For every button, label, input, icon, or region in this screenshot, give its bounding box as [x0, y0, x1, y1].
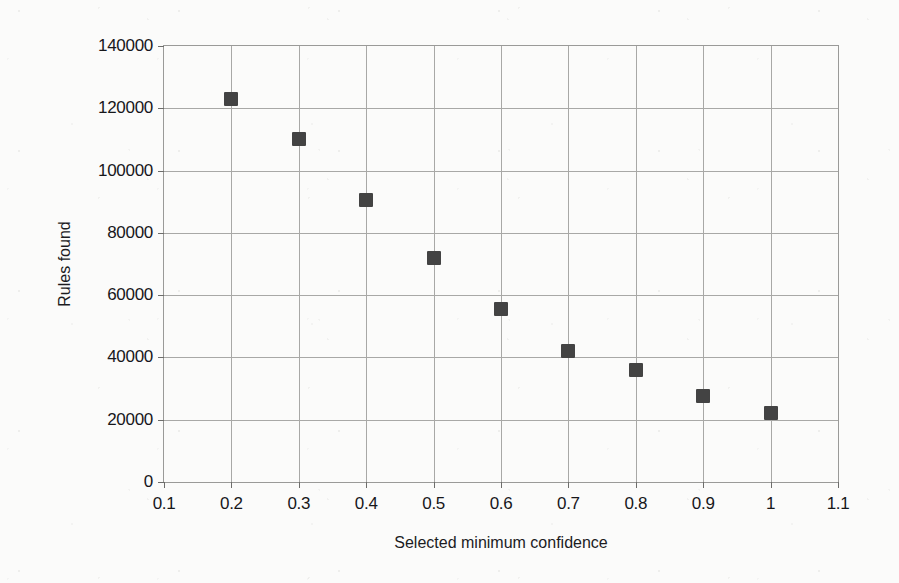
y-axis-tick-label: 0 [144, 472, 153, 492]
data-point-marker [696, 389, 710, 403]
gridline-vertical [231, 46, 232, 482]
y-axis-tick-label: 100000 [98, 161, 153, 181]
plot-area: 0200004000060000800001000001200001400000… [163, 45, 839, 483]
x-axis-title: Selected minimum confidence [163, 534, 839, 552]
x-axis-tick-label: 0.9 [692, 494, 715, 514]
data-point-marker [561, 344, 575, 358]
y-axis-tick-label: 60000 [107, 285, 153, 305]
y-axis-tick-label: 40000 [107, 347, 153, 367]
data-point-marker [224, 92, 238, 106]
y-axis-tick-label: 80000 [107, 223, 153, 243]
data-point-marker [292, 132, 306, 146]
x-axis-tick [434, 482, 435, 488]
gridline-vertical [366, 46, 367, 482]
x-axis-tick-label: 0.8 [624, 494, 647, 514]
y-axis-tick [158, 357, 164, 358]
x-axis-tick [299, 482, 300, 488]
x-axis-tick [501, 482, 502, 488]
x-axis-tick [366, 482, 367, 488]
y-axis-tick [158, 233, 164, 234]
gridline-vertical [299, 46, 300, 482]
x-axis-tick [164, 482, 165, 488]
x-axis-tick [231, 482, 232, 488]
x-axis-tick-label: 0.7 [557, 494, 580, 514]
y-axis-tick [158, 420, 164, 421]
data-point-marker [629, 363, 643, 377]
x-axis-tick [636, 482, 637, 488]
y-axis-tick [158, 295, 164, 296]
y-axis-tick-label: 140000 [98, 36, 153, 56]
gridline-vertical [703, 46, 704, 482]
x-axis-tick-label: 1 [766, 494, 775, 514]
data-point-marker [359, 193, 373, 207]
x-axis-tick [771, 482, 772, 488]
y-axis-tick-label: 20000 [107, 410, 153, 430]
gridline-vertical [501, 46, 502, 482]
y-axis-tick [158, 46, 164, 47]
x-axis-tick [838, 482, 839, 488]
x-axis-tick-label: 0.1 [153, 494, 176, 514]
gridline-vertical [568, 46, 569, 482]
data-point-marker [764, 406, 778, 420]
chart-page: 0200004000060000800001000001200001400000… [0, 0, 899, 583]
y-axis-title: Rules found [56, 221, 74, 306]
data-point-marker [494, 302, 508, 316]
x-axis-tick [703, 482, 704, 488]
x-axis-tick [568, 482, 569, 488]
y-axis-tick [158, 171, 164, 172]
x-axis-tick-label: 0.3 [287, 494, 310, 514]
data-point-marker [427, 251, 441, 265]
x-axis-tick-label: 0.4 [355, 494, 378, 514]
y-axis-tick-label: 120000 [98, 98, 153, 118]
y-axis-tick [158, 108, 164, 109]
x-axis-tick-label: 0.6 [490, 494, 513, 514]
x-axis-tick-label: 1.1 [827, 494, 850, 514]
x-axis-tick-label: 0.5 [422, 494, 445, 514]
x-axis-tick-label: 0.2 [220, 494, 243, 514]
gridline-vertical [636, 46, 637, 482]
